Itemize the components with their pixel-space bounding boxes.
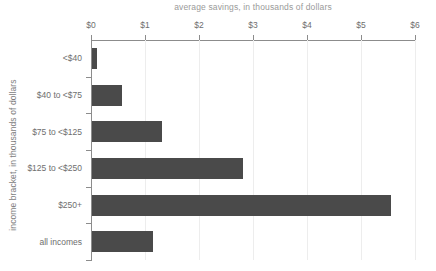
bar <box>92 195 391 216</box>
y-tick-label: all incomes <box>39 237 82 247</box>
y-tick-label: <$40 <box>63 53 82 63</box>
x-tick-label: $2 <box>194 20 203 30</box>
bar <box>92 121 162 142</box>
bar-chart: average savings, in thousands of dollars… <box>0 0 436 271</box>
gridline <box>253 40 254 260</box>
y-tick-label: $250+ <box>58 200 82 210</box>
bar <box>92 158 243 179</box>
x-tick-label: $1 <box>140 20 149 30</box>
y-tick-mark <box>86 260 92 261</box>
x-tick-label: $3 <box>248 20 257 30</box>
x-tick-label: $0 <box>86 20 95 30</box>
gridline <box>307 40 308 260</box>
x-tick-label: $6 <box>410 20 419 30</box>
gridline <box>361 40 362 260</box>
y-tick-label: $125 to <$250 <box>27 163 82 173</box>
bar <box>92 85 122 106</box>
plot-area <box>91 40 415 260</box>
gridline <box>415 40 416 260</box>
y-tick-label: $75 to <$125 <box>32 127 82 137</box>
gridline <box>199 40 200 260</box>
chart-title: average savings, in thousands of dollars <box>91 2 415 12</box>
y-axis-ticks: <$40$40 to <$75$75 to <$125$125 to <$250… <box>0 0 82 271</box>
x-tick-label: $5 <box>356 20 365 30</box>
y-tick-label: $40 to <$75 <box>37 90 82 100</box>
x-tick-label: $4 <box>302 20 311 30</box>
gridline <box>145 40 146 260</box>
bar <box>92 231 153 252</box>
bar <box>92 48 97 69</box>
